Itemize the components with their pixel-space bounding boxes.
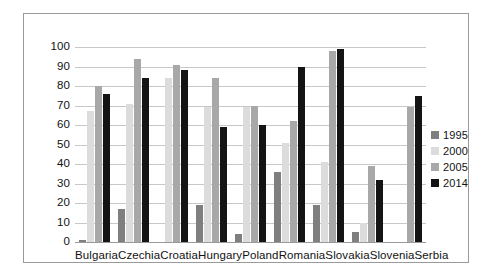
- chart-frame: 1009080706050403020100 BulgariaCzechiaCr…: [23, 13, 469, 263]
- legend-swatch-icon: [431, 163, 439, 171]
- y-tick-label: 100: [26, 41, 70, 53]
- y-tick-label: 0: [26, 236, 70, 248]
- y-tick-label: 60: [26, 119, 70, 131]
- x-axis-category-labels: BulgariaCzechiaCroatiaHungaryPolandRoman…: [75, 246, 426, 266]
- bar: [126, 104, 133, 242]
- legend-item[interactable]: 1995: [431, 127, 483, 143]
- bar: [415, 96, 422, 242]
- bar-group: [153, 47, 192, 242]
- x-tick-label: Czechia: [118, 246, 160, 266]
- legend-label: 1995: [443, 130, 468, 141]
- legend-item[interactable]: 2000: [431, 143, 483, 159]
- bar-group: [387, 47, 426, 242]
- y-tick-label: 30: [26, 178, 70, 190]
- bar-group: [270, 47, 309, 242]
- x-axis-line: [75, 242, 426, 243]
- y-tick-label: 50: [26, 139, 70, 151]
- bar: [220, 127, 227, 242]
- bar: [87, 111, 94, 242]
- legend-item[interactable]: 2005: [431, 159, 483, 175]
- legend-swatch-icon: [431, 147, 439, 155]
- bar: [329, 51, 336, 242]
- bar-group: [75, 47, 114, 242]
- bar: [274, 172, 281, 242]
- bar: [212, 78, 219, 242]
- bar: [134, 59, 141, 242]
- bar-group: [348, 47, 387, 242]
- bar: [235, 234, 242, 242]
- y-tick-label: 70: [26, 100, 70, 112]
- legend-label: 2014: [443, 178, 468, 189]
- bar: [376, 180, 383, 242]
- bar: [360, 223, 367, 243]
- legend-item[interactable]: 2014: [431, 175, 483, 191]
- y-tick-label: 80: [26, 80, 70, 92]
- bar: [95, 86, 102, 242]
- y-tick-label: 40: [26, 158, 70, 170]
- bar-group: [231, 47, 270, 242]
- bar: [181, 70, 188, 242]
- bar: [165, 78, 172, 242]
- bar: [196, 205, 203, 242]
- bar: [313, 205, 320, 242]
- bar: [290, 121, 297, 242]
- legend-swatch-icon: [431, 179, 439, 187]
- bar: [103, 94, 110, 242]
- bar: [118, 209, 125, 242]
- legend-label: 2005: [443, 162, 468, 173]
- bar-group: [192, 47, 231, 242]
- bar: [282, 143, 289, 242]
- x-tick-label: Poland: [242, 246, 278, 266]
- bar: [142, 78, 149, 242]
- x-tick-label: Slovenia: [370, 246, 415, 266]
- plot-area: [75, 47, 426, 242]
- bar: [173, 65, 180, 242]
- bar-group: [309, 47, 348, 242]
- bar: [259, 125, 266, 242]
- bar-group: [114, 47, 153, 242]
- bar-groups: [75, 47, 426, 242]
- y-axis-tick-labels: 1009080706050403020100: [24, 47, 70, 243]
- bar: [352, 232, 359, 242]
- bar: [204, 107, 211, 242]
- x-tick-label: Romania: [279, 246, 326, 266]
- bar: [337, 49, 344, 242]
- x-tick-label: Hungary: [198, 246, 242, 266]
- bar: [407, 107, 414, 242]
- chart-legend: 1995200020052014: [431, 127, 483, 191]
- bar: [251, 106, 258, 243]
- bar: [368, 166, 375, 242]
- y-tick-label: 10: [26, 217, 70, 229]
- x-tick-label: Croatia: [160, 246, 198, 266]
- x-tick-label: Serbia: [415, 246, 449, 266]
- y-tick-label: 90: [26, 61, 70, 73]
- bar: [298, 67, 305, 243]
- bar: [243, 107, 250, 242]
- bar: [321, 162, 328, 242]
- x-tick-label: Slovakia: [325, 246, 369, 266]
- legend-swatch-icon: [431, 131, 439, 139]
- y-tick-label: 20: [26, 197, 70, 209]
- legend-label: 2000: [443, 146, 468, 157]
- x-tick-label: Bulgaria: [75, 246, 118, 266]
